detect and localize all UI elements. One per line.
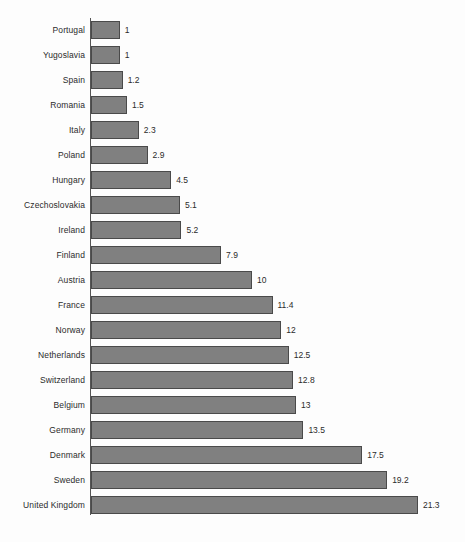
bar-value-label: 10	[257, 268, 266, 293]
category-label: Yugoslavia	[0, 43, 85, 68]
bar-row: Switzerland12.8	[0, 368, 465, 393]
bar	[91, 396, 296, 414]
bar-value-label: 4.5	[176, 168, 188, 193]
bar-value-label: 19.2	[392, 468, 409, 493]
bar	[91, 171, 171, 189]
bar-row: Belgium13	[0, 393, 465, 418]
category-label: Finland	[0, 243, 85, 268]
bar	[91, 496, 418, 514]
category-label: Romania	[0, 93, 85, 118]
category-label: Italy	[0, 118, 85, 143]
category-label: Denmark	[0, 443, 85, 468]
bar-value-label: 1	[125, 18, 130, 43]
bar-row: United Kingdom21.3	[0, 493, 465, 518]
bar-row: Netherlands12.5	[0, 343, 465, 368]
bar-row: Yugoslavia1	[0, 43, 465, 68]
bar-row: Poland2.9	[0, 143, 465, 168]
bar	[91, 446, 362, 464]
category-label: Belgium	[0, 393, 85, 418]
bar	[91, 246, 221, 264]
bar-value-label: 13	[301, 393, 310, 418]
category-label: Sweden	[0, 468, 85, 493]
bar-row: Norway12	[0, 318, 465, 343]
bar	[91, 321, 281, 339]
category-label: Switzerland	[0, 368, 85, 393]
category-label: France	[0, 293, 85, 318]
bar-value-label: 12	[286, 318, 295, 343]
bar-row: Spain1.2	[0, 68, 465, 93]
bar	[91, 271, 252, 289]
category-label: Spain	[0, 68, 85, 93]
bar	[91, 96, 127, 114]
category-label: Norway	[0, 318, 85, 343]
bar	[91, 296, 273, 314]
bar-value-label: 21.3	[423, 493, 440, 518]
bar	[91, 346, 289, 364]
bar-value-label: 12.8	[298, 368, 315, 393]
category-label: Hungary	[0, 168, 85, 193]
bar-chart: Portugal1Yugoslavia1Spain1.2Romania1.5It…	[0, 0, 465, 542]
bar	[91, 21, 120, 39]
bar	[91, 121, 139, 139]
bar-value-label: 12.5	[294, 343, 311, 368]
category-label: Netherlands	[0, 343, 85, 368]
category-label: Austria	[0, 268, 85, 293]
bar	[91, 471, 387, 489]
bar-value-label: 11.4	[278, 293, 294, 318]
bar	[91, 221, 181, 239]
bar	[91, 146, 148, 164]
bar	[91, 371, 293, 389]
category-label: Czechoslovakia	[0, 193, 85, 218]
bar	[91, 46, 120, 64]
bar	[91, 196, 180, 214]
bar-row: Hungary4.5	[0, 168, 465, 193]
bar-row: Czechoslovakia5.1	[0, 193, 465, 218]
bar-value-label: 1.2	[128, 68, 140, 93]
bar-value-label: 2.3	[144, 118, 156, 143]
bar-value-label: 7.9	[226, 243, 238, 268]
bar-value-label: 1.5	[132, 93, 144, 118]
bar-value-label: 1	[125, 43, 130, 68]
category-label: United Kingdom	[0, 493, 85, 518]
bar-value-label: 2.9	[153, 143, 165, 168]
bar-row: Finland7.9	[0, 243, 465, 268]
bar	[91, 421, 303, 439]
bar-value-label: 13.5	[308, 418, 325, 443]
bar	[91, 71, 123, 89]
bar-row: Austria10	[0, 268, 465, 293]
bar-value-label: 5.2	[186, 218, 198, 243]
bar-row: Romania1.5	[0, 93, 465, 118]
bar-value-label: 17.5	[367, 443, 384, 468]
category-label: Ireland	[0, 218, 85, 243]
bar-row: Portugal1	[0, 18, 465, 43]
bar-row: France11.4	[0, 293, 465, 318]
bar-row: Ireland5.2	[0, 218, 465, 243]
bar-row: Germany13.5	[0, 418, 465, 443]
bar-value-label: 5.1	[185, 193, 197, 218]
bar-row: Italy2.3	[0, 118, 465, 143]
category-label: Poland	[0, 143, 85, 168]
bar-row: Sweden19.2	[0, 468, 465, 493]
category-label: Portugal	[0, 18, 85, 43]
bar-row: Denmark17.5	[0, 443, 465, 468]
category-label: Germany	[0, 418, 85, 443]
